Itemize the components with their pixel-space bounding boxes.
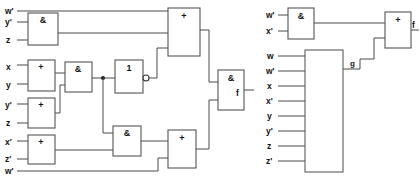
block-input-label-w: w	[266, 51, 274, 61]
and-gate-wprime-xprime-symbol: &	[298, 11, 305, 21]
circuit-diagram-canvas: w' y' z x y y' z x' z' w' & + +	[0, 0, 420, 191]
and-gate-middle-symbol: &	[75, 64, 82, 74]
wire-and2-branch-down	[103, 78, 113, 133]
right-input-label-w-prime: w'	[265, 10, 275, 20]
and-gate-lower-symbol: &	[124, 128, 131, 138]
right-input-label-x-prime: x'	[266, 26, 273, 36]
or-gate-yprime-z-symbol: +	[38, 100, 43, 110]
block-input-label-z: z	[267, 141, 271, 151]
block-input-label-x: x	[267, 81, 272, 91]
input-label-z-prime: z'	[5, 154, 11, 164]
input-label-y-prime-1: y'	[5, 17, 12, 27]
input-label-y: y	[6, 80, 11, 90]
or-gate-top-symbol: +	[181, 11, 186, 21]
block-input-label-x-prime: x'	[266, 96, 273, 106]
or-gate-xprime-zprime-symbol: +	[38, 137, 43, 147]
input-label-w-prime-bottom: w'	[4, 166, 14, 176]
input-label-z-2: z	[6, 118, 10, 128]
block-input-label-z-prime: z'	[266, 156, 272, 166]
input-label-y-prime-2: y'	[5, 100, 12, 110]
wire-inverter-to-or4	[149, 48, 168, 78]
right-circuit: w' x' & w w' x x' y y' z z' g + f	[265, 8, 419, 172]
left-circuit: w' y' z x y y' z x' z' w' & + +	[4, 6, 254, 176]
right-output-label-f: f	[412, 20, 415, 30]
inverter-bubble-icon	[143, 75, 149, 81]
input-label-x-prime: x'	[5, 137, 12, 147]
block-input-label-y-prime: y'	[266, 126, 273, 136]
block-input-label-w-prime: w'	[265, 66, 275, 76]
block-input-label-y: y	[267, 111, 272, 121]
input-label-w-prime-top: w'	[4, 6, 14, 16]
and-gate-yprime-z-symbol: &	[40, 15, 47, 25]
input-label-z-1: z	[6, 35, 10, 45]
left-output-label-f: f	[236, 88, 239, 98]
input-label-x: x	[6, 62, 11, 72]
and-gate-output-symbol: &	[228, 73, 235, 83]
signal-label-g: g	[350, 59, 355, 68]
or-gate-bottom-symbol: +	[179, 133, 184, 143]
or-gate-x-y-symbol: +	[38, 62, 43, 72]
wire-or4-to-and4	[200, 30, 218, 82]
inverter-gate-symbol: 1	[126, 63, 131, 73]
logic-block[interactable]	[305, 50, 343, 172]
wire-or5-to-and4	[196, 100, 218, 149]
wire-or2-to-and2	[55, 85, 65, 113]
or-gate-output-symbol: +	[395, 15, 400, 25]
